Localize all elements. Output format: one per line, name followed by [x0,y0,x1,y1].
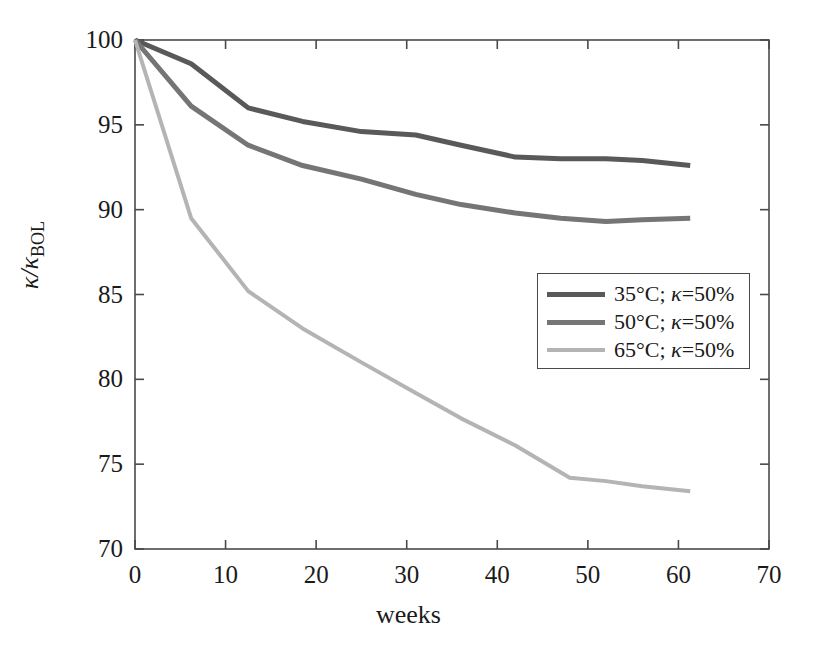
y-tick-label: 75 [35,450,123,478]
x-tick-label: 60 [666,561,691,589]
x-tick-label: 20 [304,561,329,589]
y-axis-label: κ/κBOL [15,155,49,355]
figure-canvas: 010203040506070707580859095100 κ/κBOL we… [0,0,817,652]
series-line-2 [135,40,690,491]
y-tick-label: 70 [35,535,123,563]
series-line-1 [135,40,690,222]
y-axis-label-kappa: κ/κ [15,257,44,289]
x-tick-label: 10 [213,561,238,589]
y-tick-label: 95 [35,111,123,139]
legend-box: 35°C; κ=50% 50°C; κ=50% 65°C; κ=50% [537,273,750,369]
legend-label-50c: 50°C; κ=50% [614,311,734,333]
x-tick-label: 70 [757,561,782,589]
legend-label-35c: 35°C; κ=50% [614,283,734,305]
x-axis-label: weeks [0,600,817,630]
x-tick-label: 50 [575,561,600,589]
legend-item-65c[interactable]: 65°C; κ=50% [538,336,749,364]
x-tick-label: 30 [394,561,419,589]
series-lines [135,40,690,491]
legend-swatch-50c [547,320,605,325]
x-tick-label: 40 [485,561,510,589]
legend-label-65c: 65°C; κ=50% [614,339,734,361]
legend-item-50c[interactable]: 50°C; κ=50% [538,308,749,336]
legend-item-35c[interactable]: 35°C; κ=50% [538,280,749,308]
x-tick-label: 0 [129,561,142,589]
series-line-0 [135,40,690,166]
legend-swatch-65c [547,348,605,352]
legend-swatch-35c [547,292,605,297]
y-tick-label: 100 [35,26,123,54]
y-axis-label-subscript: BOL [28,221,48,257]
y-tick-label: 80 [35,365,123,393]
